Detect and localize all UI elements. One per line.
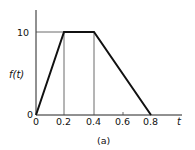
y-axis-label: f(t) — [9, 69, 24, 80]
x-tick-label-02: 0.2 — [56, 116, 71, 127]
x-tick-label-04: 0.4 — [86, 116, 101, 127]
figure-caption: (a) — [97, 135, 110, 146]
trapezoid-chart: 10 0 f(t) 0 0.2 0.4 0.6 0.8 t (a) — [0, 0, 195, 150]
x-axis-label: t — [177, 116, 182, 127]
x-tick-label-0: 0 — [33, 116, 39, 127]
x-tick-label-08: 0.8 — [143, 116, 158, 127]
f-t-curve — [36, 32, 151, 115]
x-tick-label-06: 0.6 — [115, 116, 130, 127]
y-tick-label-10: 10 — [17, 27, 29, 38]
